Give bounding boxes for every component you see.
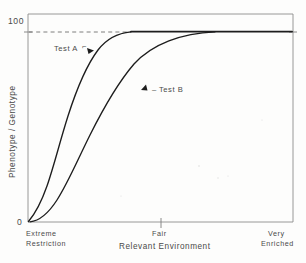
scan-noise [120, 119, 262, 196]
x-tick-label-enriched-line1: Very [268, 229, 285, 238]
x-tick-label-extreme-line1: Extreme [26, 229, 57, 238]
figure-container: 100 0 Phenotype / Genotype Extreme Restr… [0, 0, 306, 263]
series-label-test-a: Test A [54, 44, 78, 53]
test-b-pointer [141, 85, 148, 91]
x-axis-title: Relevant Environment [119, 242, 211, 251]
x-tick-label-extreme-line2: Restriction [26, 239, 66, 248]
x-tick-label-enriched-line2: Enriched [261, 239, 294, 248]
curve-test-b [30, 32, 215, 222]
series-label-test-a-marker: ⌐ [82, 42, 87, 51]
y-axis-title: Phenotype / Genotype [8, 86, 17, 178]
chart-canvas: 100 0 Phenotype / Genotype Extreme Restr… [0, 0, 306, 263]
series-label-test-b-marker: – [152, 85, 157, 94]
y-axis-min-label: 0 [17, 217, 22, 227]
x-tick-label-fair: Fair [152, 229, 167, 238]
series-label-test-b: Test B [159, 85, 183, 94]
y-axis-max-label: 100 [8, 16, 24, 26]
test-a-pointer [87, 48, 94, 54]
curve-test-a [29, 32, 132, 222]
